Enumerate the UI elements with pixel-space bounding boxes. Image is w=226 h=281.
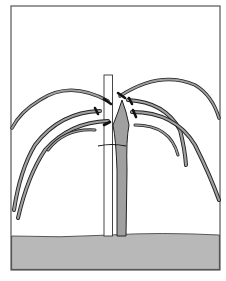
plant-drawing bbox=[0, 0, 226, 281]
illustration bbox=[0, 0, 226, 281]
ground bbox=[12, 234, 220, 270]
